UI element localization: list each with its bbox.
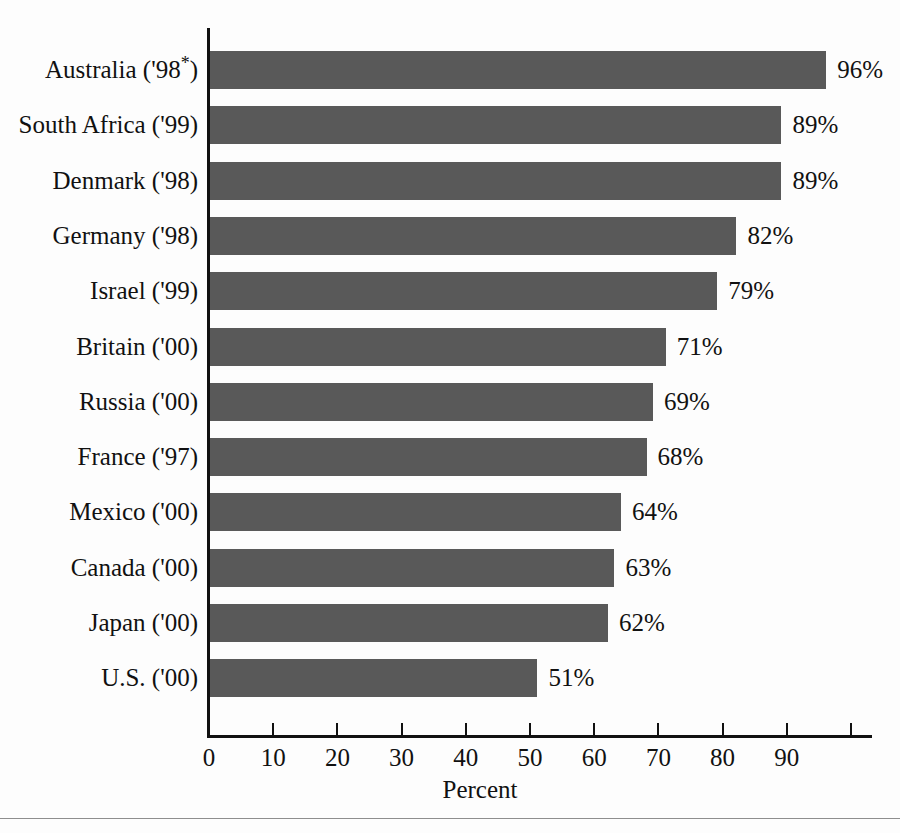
x-axis-tick-label: 40 <box>436 742 496 774</box>
bar-value-label: 82% <box>736 217 793 255</box>
x-axis-line <box>207 735 872 738</box>
bar-row: Australia ('98*)96% <box>0 51 900 89</box>
bar-value-label: 51% <box>537 659 594 697</box>
x-axis-tick <box>722 723 724 737</box>
bar-value-label: 68% <box>647 438 704 476</box>
bar-category-label: U.S. ('00) <box>101 659 198 697</box>
x-axis-title: Percent <box>0 776 900 804</box>
bar-value-label: 71% <box>666 328 723 366</box>
bar <box>210 549 614 587</box>
bar <box>210 272 717 310</box>
x-axis-tick-label: 10 <box>243 742 303 774</box>
bar-value-label: 63% <box>614 549 671 587</box>
bar-value-label: 89% <box>781 162 838 200</box>
bar-category-label: Britain ('00) <box>76 328 198 366</box>
bar-value-label: 96% <box>826 51 883 89</box>
bar <box>210 51 826 89</box>
x-axis-tick-label: 60 <box>564 742 624 774</box>
x-axis-title-label: Percent <box>443 776 518 804</box>
bar-category-label: Mexico ('00) <box>69 493 198 531</box>
bar-category-label: South Africa ('99) <box>19 106 198 144</box>
bar-row: Britain ('00)71% <box>0 328 900 366</box>
bar-value-label: 64% <box>621 493 678 531</box>
bottom-divider <box>0 818 900 819</box>
bar-row: South Africa ('99)89% <box>0 106 900 144</box>
bar-value-label: 89% <box>781 106 838 144</box>
bar-row: Japan ('00)62% <box>0 604 900 642</box>
x-axis-tick <box>336 723 338 737</box>
bar-category-label: France ('97) <box>78 438 198 476</box>
bar <box>210 328 666 366</box>
bar-row: Denmark ('98)89% <box>0 162 900 200</box>
bar-category-label: Australia ('98*) <box>45 51 198 89</box>
bar <box>210 162 781 200</box>
bar <box>210 438 647 476</box>
bar <box>210 217 736 255</box>
plot-area: Australia ('98*)96%South Africa ('99)89%… <box>0 0 900 833</box>
bar-category-label: Japan ('00) <box>89 604 198 642</box>
x-axis-tick-label: 70 <box>628 742 688 774</box>
x-axis-tick <box>401 723 403 737</box>
bar <box>210 106 781 144</box>
bar <box>210 659 537 697</box>
bar-category-label: Russia ('00) <box>79 383 198 421</box>
bar-row: Israel ('99)79% <box>0 272 900 310</box>
x-axis-tick-label: 50 <box>500 742 560 774</box>
bar <box>210 383 653 421</box>
x-axis-tick <box>272 723 274 737</box>
x-axis-tick <box>465 723 467 737</box>
x-axis-tick <box>657 723 659 737</box>
footnote-asterisk: * <box>181 53 190 73</box>
x-axis-tick <box>593 723 595 737</box>
bar-value-label: 79% <box>717 272 774 310</box>
x-axis-tick <box>529 723 531 737</box>
bar-category-label: Germany ('98) <box>53 217 198 255</box>
x-axis-tick-label: 80 <box>693 742 753 774</box>
bar-row: Mexico ('00)64% <box>0 493 900 531</box>
bar-row: Russia ('00)69% <box>0 383 900 421</box>
bar-category-label: Denmark ('98) <box>53 162 198 200</box>
x-axis-tick-label: 30 <box>372 742 432 774</box>
x-axis-tick-label: 20 <box>307 742 367 774</box>
x-axis-tick-label: 0 <box>179 742 239 774</box>
x-axis-tick-label: 90 <box>757 742 817 774</box>
bar-row: France ('97)68% <box>0 438 900 476</box>
bar <box>210 604 608 642</box>
x-axis-tick <box>786 723 788 737</box>
bar-category-label: Canada ('00) <box>71 549 198 587</box>
bar <box>210 493 621 531</box>
bar-row: U.S. ('00)51% <box>0 659 900 697</box>
bar-row: Germany ('98)82% <box>0 217 900 255</box>
x-axis-tick <box>850 723 852 737</box>
bar-chart-figure: Australia ('98*)96%South Africa ('99)89%… <box>0 0 900 833</box>
bar-row: Canada ('00)63% <box>0 549 900 587</box>
bar-value-label: 62% <box>608 604 665 642</box>
bar-value-label: 69% <box>653 383 710 421</box>
bar-category-label: Israel ('99) <box>90 272 198 310</box>
